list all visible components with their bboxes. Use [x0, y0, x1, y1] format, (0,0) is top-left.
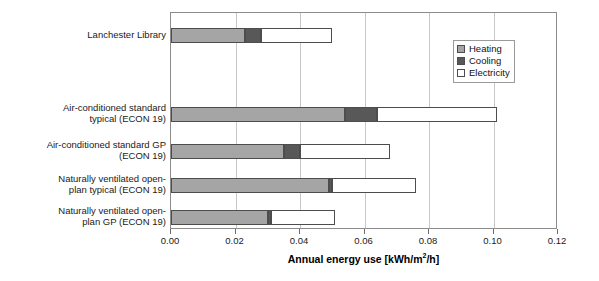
legend-item-heating: Heating — [457, 43, 510, 55]
category-label: Lanchester Library — [3, 29, 166, 41]
bar-segment-electricity — [300, 144, 390, 159]
legend-swatch-cooling — [457, 57, 465, 65]
legend: HeatingCoolingElectricity — [453, 40, 515, 83]
category-label: Naturally ventilated open- plan GP (ECON… — [3, 205, 166, 228]
legend-label: Cooling — [469, 55, 501, 67]
category-label: Air-conditioned standard typical (ECON 1… — [3, 102, 166, 125]
bar-segment-electricity — [332, 178, 416, 193]
x-axis-tick-label: 0.08 — [419, 235, 438, 246]
bar-row — [171, 210, 558, 225]
bar-segment-cooling — [345, 107, 377, 122]
x-axis-tick — [299, 229, 300, 234]
x-axis-tick-label: 0.00 — [161, 235, 180, 246]
category-label: Naturally ventilated open- plan typical … — [3, 173, 166, 196]
bar-segment-electricity — [261, 28, 332, 43]
x-axis-title: Annual energy use [kWh/m2/h] — [170, 252, 557, 265]
x-axis-title-tail: /h] — [426, 253, 439, 265]
bar-segment-cooling — [245, 28, 261, 43]
bar-segment-heating — [171, 144, 284, 159]
x-axis-tick-label: 0.06 — [354, 235, 373, 246]
x-axis-tick-label: 0.12 — [548, 235, 567, 246]
x-axis-tick — [364, 229, 365, 234]
bar-segment-electricity — [271, 210, 336, 225]
bar-segment-heating — [171, 178, 329, 193]
legend-label: Heating — [469, 43, 502, 55]
x-axis-tick — [428, 229, 429, 234]
x-axis-title-main: Annual energy use [kWh/m — [288, 253, 423, 265]
bar-segment-heating — [171, 210, 268, 225]
legend-label: Electricity — [469, 67, 510, 79]
bar-row — [171, 144, 558, 159]
bar-segment-cooling — [284, 144, 300, 159]
legend-swatch-heating — [457, 45, 465, 53]
x-axis-tick — [557, 229, 558, 234]
x-axis-tick-label: 0.02 — [225, 235, 244, 246]
x-axis-tick-label: 0.04 — [290, 235, 309, 246]
x-axis-tick — [493, 229, 494, 234]
bar-row — [171, 107, 558, 122]
bar-row — [171, 178, 558, 193]
x-axis-tick-label: 0.10 — [483, 235, 502, 246]
category-label: Air-conditioned standard GP (ECON 19) — [3, 139, 166, 162]
bar-segment-electricity — [377, 107, 496, 122]
energy-use-bar-chart: Lanchester LibraryAir-conditioned standa… — [0, 0, 599, 281]
bar-segment-heating — [171, 107, 345, 122]
bar-segment-heating — [171, 28, 245, 43]
x-axis: 0.000.020.040.060.080.100.12 — [170, 229, 557, 251]
x-axis-tick — [170, 229, 171, 234]
x-axis-tick — [235, 229, 236, 234]
legend-swatch-electricity — [457, 69, 465, 77]
legend-item-cooling: Cooling — [457, 55, 510, 67]
legend-item-electricity: Electricity — [457, 67, 510, 79]
